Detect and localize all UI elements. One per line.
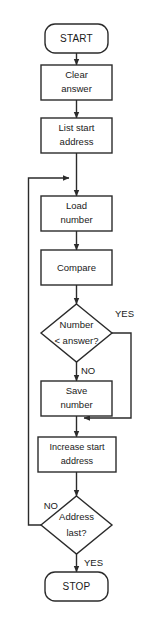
node-number-less-than-answer: Number < answer? (41, 304, 112, 362)
branch-label-yes-number: YES (115, 308, 134, 319)
branch-label-yes-address: YES (84, 557, 103, 568)
number-decision-shape (41, 304, 112, 362)
start-label: START (60, 33, 93, 44)
node-list-start-address: List start address (41, 118, 112, 153)
node-start: START (45, 24, 108, 53)
list-start-address-label-line1: List start (59, 122, 95, 133)
flowchart-canvas: START Clear answer List start address Lo… (0, 0, 148, 619)
node-load-number: Load number (41, 196, 112, 231)
branch-label-no-number: NO (81, 365, 95, 376)
clear-answer-label-line1: Clear (65, 69, 88, 80)
increase-start-address-label-line2: address (61, 456, 94, 466)
save-number-label-line2: number (60, 399, 92, 410)
number-decision-label-line1: Number (60, 319, 94, 330)
node-save-number: Save number (41, 381, 112, 416)
branch-label-no-address: NO (44, 500, 58, 511)
node-clear-answer: Clear answer (41, 65, 112, 100)
increase-start-address-label-line1: Increase start (49, 442, 105, 452)
number-decision-label-line2: < answer? (54, 335, 98, 346)
save-number-label-line1: Save (66, 385, 88, 396)
node-stop: STOP (45, 572, 108, 601)
node-compare: Compare (41, 250, 112, 285)
node-increase-start-address: Increase start address (38, 437, 116, 472)
stop-label: STOP (63, 581, 91, 592)
load-number-label-line2: number (60, 214, 92, 225)
flowchart-diagram: START Clear answer List start address Lo… (0, 0, 148, 619)
address-decision-label-line2: last? (66, 527, 86, 538)
load-number-label-line1: Load (66, 200, 87, 211)
compare-label-line1: Compare (57, 262, 96, 273)
address-decision-label-line1: Address (59, 511, 94, 522)
clear-answer-label-line2: answer (61, 83, 92, 94)
list-start-address-label-line2: address (60, 136, 94, 147)
